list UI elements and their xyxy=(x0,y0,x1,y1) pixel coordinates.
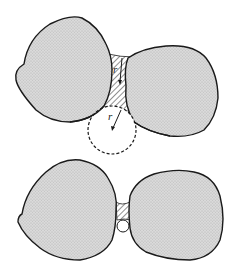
particle-right-bottom xyxy=(129,170,223,260)
diagram: r r xyxy=(0,0,237,276)
bottom-panel xyxy=(18,160,223,260)
particle-right-top xyxy=(125,46,218,137)
circle-radius-label: r xyxy=(108,110,113,122)
particle-left-bottom xyxy=(18,160,116,260)
neck-radius-label: r xyxy=(113,63,118,75)
particle-left-top xyxy=(16,17,112,122)
inscribed-circle-bottom xyxy=(117,220,129,232)
top-panel: r r xyxy=(16,17,218,154)
